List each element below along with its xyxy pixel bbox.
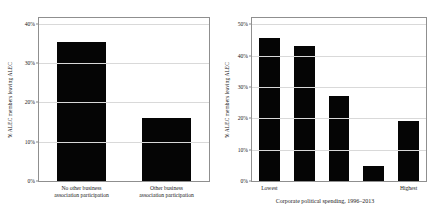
figure-two-bar-charts: % ALEC members leaving ALEC 0%10%20%30%4… bbox=[0, 0, 433, 218]
gridline bbox=[252, 150, 426, 151]
bar-group-right bbox=[252, 18, 426, 181]
gridline bbox=[39, 102, 209, 103]
y-axis-tick-label: 50% bbox=[238, 21, 248, 27]
gridline bbox=[252, 87, 426, 88]
y-axis-tick-label: 0% bbox=[28, 178, 35, 184]
y-axis-tick-label: 10% bbox=[238, 147, 248, 153]
gridline bbox=[252, 24, 426, 25]
bar bbox=[294, 46, 315, 181]
y-axis-title-right: % ALEC members leaving ALEC bbox=[219, 16, 235, 184]
y-axis-tick-label: 10% bbox=[25, 139, 35, 145]
bar bbox=[259, 38, 280, 181]
x-axis-tick-label-line: association participation bbox=[139, 192, 194, 199]
y-axis-tick-label: 20% bbox=[238, 115, 248, 121]
bar bbox=[329, 96, 350, 181]
plot-area-left bbox=[38, 17, 210, 182]
x-axis-tick-label-line: Lowest bbox=[261, 185, 277, 192]
y-axis-tick-label: 40% bbox=[238, 53, 248, 59]
y-axis-tick-label: 30% bbox=[238, 84, 248, 90]
gridline bbox=[252, 118, 426, 119]
x-axis-tick-label: Lowest bbox=[261, 185, 277, 192]
y-axis-tick-label: 30% bbox=[25, 60, 35, 66]
chart-panel-right: % ALEC members leaving ALEC 0%10%20%30%4… bbox=[217, 0, 433, 218]
x-axis-tick-label: No other businessassociation participati… bbox=[54, 185, 109, 199]
gridline bbox=[39, 24, 209, 25]
bar bbox=[142, 118, 191, 181]
gridline bbox=[39, 63, 209, 64]
x-axis-title-right: Corporate political spending, 1996–2013 bbox=[217, 198, 433, 204]
x-axis-tick-label-line: No other business bbox=[54, 185, 109, 192]
y-axis-tick-label: 40% bbox=[25, 21, 35, 27]
y-axis-tick-label: 0% bbox=[241, 178, 248, 184]
x-axis-tick-label-line: Highest bbox=[400, 185, 417, 192]
plot-area-right bbox=[251, 17, 427, 182]
bar-group-left bbox=[39, 18, 209, 181]
bar bbox=[398, 121, 419, 181]
x-axis-tick-label-line: Other business bbox=[139, 185, 194, 192]
y-axis-title-left: % ALEC members leaving ALEC bbox=[2, 16, 18, 184]
bar bbox=[363, 166, 384, 181]
gridline bbox=[252, 56, 426, 57]
x-axis-tick-label-line: association participation bbox=[54, 192, 109, 199]
x-axis-tick-label: Other businessassociation participation bbox=[139, 185, 194, 199]
gridline bbox=[39, 142, 209, 143]
y-axis-tick-label: 20% bbox=[25, 99, 35, 105]
x-axis-tick-label: Highest bbox=[400, 185, 417, 192]
chart-panel-left: % ALEC members leaving ALEC 0%10%20%30%4… bbox=[0, 0, 217, 218]
